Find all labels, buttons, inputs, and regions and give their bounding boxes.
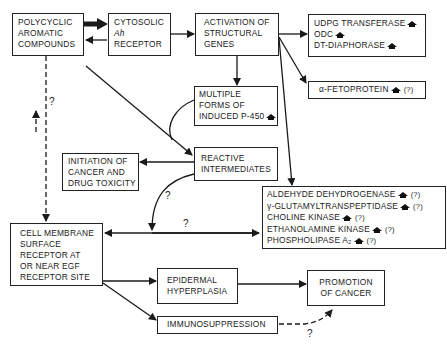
node-text: OF CANCER <box>312 288 380 299</box>
node-text: RECEPTOR AT <box>20 250 93 261</box>
node-induced-enzymes: UDPG TRANSFERASE ODC DT-DIAPHORASE <box>308 14 426 57</box>
node-text: ACTIVATION OF <box>204 17 273 28</box>
node-promotion-of-cancer: PROMOTION OF CANCER <box>307 270 385 306</box>
node-text: OR NEAR EGF <box>20 261 93 272</box>
increase-arrow-icon <box>372 227 382 231</box>
node-text: COMPOUNDS <box>18 39 78 50</box>
node-cell-membrane-receptor: CELL MEMBRANE SURFACE RECEPTOR AT OR NEA… <box>10 223 103 286</box>
pah-mechanism-diagram: POLYCYCLIC AROMATIC COMPOUNDS CYTOSOLIC … <box>0 0 447 345</box>
node-text: EPIDERMAL <box>167 275 228 286</box>
node-text: GENES <box>204 39 273 50</box>
enzyme-label: ODC <box>314 29 333 39</box>
node-text: DRUG TOXICITY <box>68 178 133 189</box>
increase-arrow-icon <box>342 215 352 219</box>
node-activation-structural-genes: ACTIVATION OF STRUCTURAL GENES <box>195 13 279 56</box>
enzyme-label: ETHANOLAMINE KINASE <box>267 224 370 234</box>
node-text: INITIATION OF <box>68 156 133 167</box>
node-alpha-fetoprotein: α-FETOPROTEIN(?) <box>308 81 426 99</box>
question-mark-pah-membrane: ? <box>49 96 55 107</box>
question-mark-membrane-enzymes: ? <box>183 218 189 229</box>
uncertain-note: (?) <box>367 236 377 245</box>
increase-arrow-icon <box>400 204 410 208</box>
increase-arrow-icon <box>407 21 417 25</box>
uncertain-note: (?) <box>413 202 423 211</box>
node-text: IMMUNOSUPPRESSION <box>167 319 268 330</box>
uncertain-note: (?) <box>355 213 365 222</box>
node-text: CELL MEMBRANE <box>20 228 93 239</box>
enzyme-label: DT-DIAPHORASE <box>314 40 385 50</box>
node-text: INDUCED P-450 <box>199 111 264 121</box>
node-text: HYPERPLASIA <box>167 286 228 297</box>
enzyme-label: PHOSPHOLIPASE A₂ <box>267 235 352 245</box>
node-epidermal-hyperplasia: EPIDERMAL HYPERPLASIA <box>157 268 238 304</box>
increase-arrow-icon <box>335 32 345 36</box>
node-text: FORMS OF <box>199 100 273 111</box>
uncertain-note: (?) <box>411 190 421 199</box>
node-text: CYTOSOLIC <box>114 17 165 28</box>
uncertain-note: (?) <box>385 225 395 234</box>
increase-arrow-icon <box>354 238 364 242</box>
node-reactive-intermediates: REACTIVE INTERMEDIATES <box>194 147 278 181</box>
increase-arrow-icon <box>391 87 401 91</box>
node-text: MULTIPLE <box>199 89 273 100</box>
node-text: SURFACE <box>20 239 93 250</box>
increase-arrow-icon <box>266 114 276 118</box>
node-polycyclic-aromatic-compounds: POLYCYCLIC AROMATIC COMPOUNDS <box>12 13 84 56</box>
enzyme-label: γ-GLUTAMYLTRANSPEPTIDASE <box>267 201 398 211</box>
enzyme-label: CHOLINE KINASE <box>267 212 340 222</box>
node-text: STRUCTURAL <box>204 28 273 39</box>
question-mark-immuno-promotion: ? <box>307 328 313 339</box>
increase-arrow-icon <box>398 192 408 196</box>
node-multiple-forms-p450: MULTIPLE FORMS OF INDUCED P-450 <box>194 86 278 126</box>
enzyme-label: ALDEHYDE DEHYDROGENASE <box>267 189 396 199</box>
node-text: INTERMEDIATES <box>201 164 271 175</box>
enzyme-label: UDPG TRANSFERASE <box>314 18 405 28</box>
node-text: Ah <box>114 28 165 39</box>
node-text: PROMOTION <box>312 277 380 288</box>
afp-label: α-FETOPROTEIN <box>319 84 389 94</box>
increase-arrow-icon <box>387 43 397 47</box>
node-immunosuppression: IMMUNOSUPPRESSION <box>157 316 278 334</box>
node-text: AROMATIC <box>18 28 78 39</box>
node-text: RECEPTOR SITE <box>20 272 93 283</box>
node-text: CANCER AND <box>68 167 133 178</box>
question-mark-reactive-membrane: ? <box>165 190 171 201</box>
node-text: RECEPTOR <box>114 39 165 50</box>
node-text: REACTIVE <box>201 153 271 164</box>
node-text: POLYCYCLIC <box>18 17 78 28</box>
node-membrane-enzymes: ALDEHYDE DEHYDROGENASE(?) γ-GLUTAMYLTRAN… <box>262 186 446 249</box>
node-initiation-of-cancer: INITIATION OF CANCER AND DRUG TOXICITY <box>62 153 139 191</box>
uncertain-note: (?) <box>404 85 414 94</box>
node-cytosolic-ah-receptor: CYTOSOLIC Ah RECEPTOR <box>108 13 171 56</box>
